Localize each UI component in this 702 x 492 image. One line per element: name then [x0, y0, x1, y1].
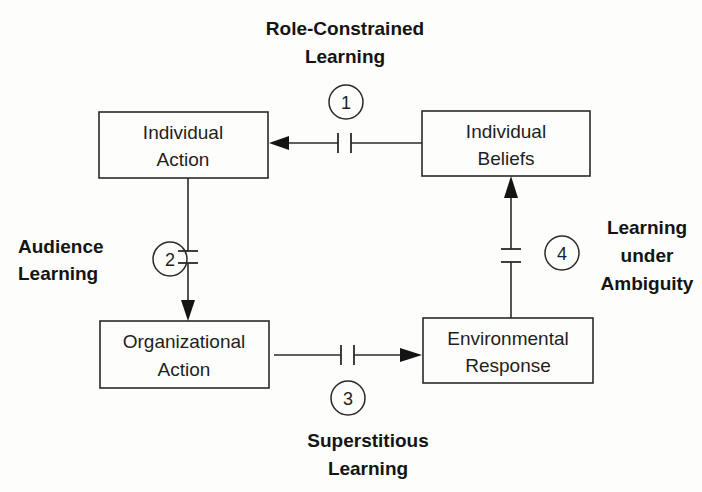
- node-label-line: Action: [157, 149, 210, 170]
- node-label-line: Response: [465, 355, 551, 376]
- edge-1-role-constrained: 1 Role-Constrained Learning: [266, 18, 424, 153]
- node-label-line: Environmental: [447, 328, 568, 349]
- edge-number: 2: [165, 250, 175, 270]
- edge-4-ambiguity: 4 Learning under Ambiguity: [501, 176, 694, 318]
- edge-number: 4: [557, 244, 567, 264]
- node-label-line: Individual: [143, 122, 223, 143]
- arrowhead-up-icon: [504, 176, 518, 198]
- edge-label-line: Learning: [607, 217, 687, 238]
- edge-label-line: under: [621, 245, 674, 266]
- node-label-line: Individual: [466, 121, 546, 142]
- edge-label-line: Ambiguity: [601, 273, 694, 294]
- node-label-line: Beliefs: [477, 148, 534, 169]
- learning-cycle-diagram: Individual Action Individual Beliefs Org…: [0, 0, 702, 492]
- arrowhead-left-icon: [269, 136, 289, 150]
- arrowhead-down-icon: [181, 300, 195, 321]
- edge-label-line: Role-Constrained: [266, 18, 424, 39]
- node-label-line: Action: [158, 359, 211, 380]
- edge-number: 3: [343, 389, 353, 409]
- arrowhead-right-icon: [400, 348, 422, 362]
- node-label-line: Organizational: [123, 331, 246, 352]
- edge-label-line: Superstitious: [307, 430, 428, 451]
- node-organizational-action: Organizational Action: [100, 321, 269, 388]
- edge-label-line: Learning: [305, 46, 385, 67]
- edge-label-line: Learning: [18, 263, 98, 284]
- edge-number: 1: [341, 93, 351, 113]
- node-environmental-response: Environmental Response: [423, 318, 593, 383]
- node-individual-action: Individual Action: [99, 112, 268, 178]
- edge-3-superstitious: 3 Superstitious Learning: [274, 345, 429, 479]
- edge-label-line: Audience: [18, 236, 104, 257]
- node-individual-beliefs: Individual Beliefs: [422, 111, 590, 176]
- edge-label-line: Learning: [328, 458, 408, 479]
- edge-2-audience: 2 Audience Learning: [18, 178, 198, 321]
